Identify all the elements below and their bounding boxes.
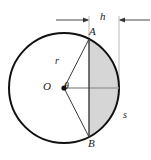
label-radius-r: r — [55, 56, 59, 66]
radius-line-ob — [64, 88, 89, 137]
dimension-arrow-left-head — [83, 18, 89, 23]
label-point-a: A — [89, 26, 96, 37]
label-height-h: h — [100, 11, 106, 22]
label-angle-theta: θ — [64, 81, 69, 91]
figure-canvas — [0, 0, 151, 160]
circular-segment-figure: A B O θ r s h — [0, 0, 151, 160]
label-center-o: O — [43, 81, 51, 92]
label-point-b: B — [88, 138, 95, 149]
dimension-arrow-right-head — [119, 18, 125, 23]
label-arc-s: s — [123, 110, 127, 120]
